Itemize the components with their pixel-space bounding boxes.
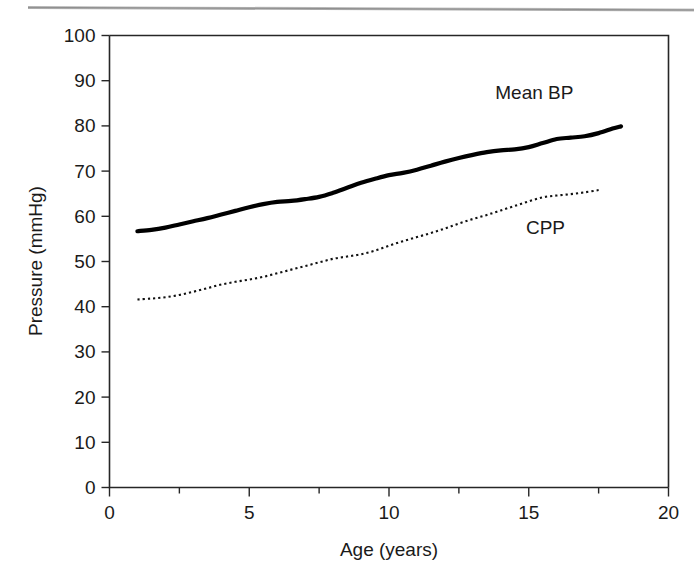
x-axis-title: Age (years)	[340, 539, 438, 560]
chart-axes	[110, 36, 669, 488]
y-tick-label-8: 80	[74, 115, 95, 136]
axis-frame	[110, 36, 669, 488]
y-tick-label-10: 100	[64, 25, 96, 46]
y-tick-label-3: 30	[74, 341, 95, 362]
x-tick-label-2: 10	[378, 502, 399, 523]
series-line-cpp	[137, 190, 598, 299]
line-chart: 0102030405060708090100 05101520 Mean BPC…	[0, 0, 694, 576]
y-tick-label-9: 90	[74, 70, 95, 91]
series-label-mean-bp: Mean BP	[495, 82, 573, 103]
x-axis-tick-labels: 05101520	[104, 502, 679, 523]
y-tick-label-4: 40	[74, 296, 95, 317]
series-annotations: Mean BPCPP	[495, 82, 573, 239]
chart-series	[137, 126, 621, 299]
series-line-mean-bp	[137, 126, 621, 231]
series-label-cpp: CPP	[526, 217, 565, 238]
chart-tick-marks	[102, 36, 669, 497]
y-tick-label-7: 70	[74, 161, 95, 182]
y-axis-title: Pressure (mmHg)	[25, 186, 46, 336]
y-tick-label-2: 20	[74, 387, 95, 408]
x-tick-label-1: 5	[244, 502, 255, 523]
x-tick-label-3: 15	[518, 502, 539, 523]
y-axis-tick-labels: 0102030405060708090100	[64, 25, 96, 498]
x-tick-label-4: 20	[658, 502, 679, 523]
y-tick-label-5: 50	[74, 251, 95, 272]
y-tick-label-6: 60	[74, 206, 95, 227]
axis-spines	[110, 36, 669, 488]
y-tick-label-0: 0	[85, 477, 96, 498]
y-tick-label-1: 10	[74, 432, 95, 453]
chart-figure: 0102030405060708090100 05101520 Mean BPC…	[0, 0, 694, 576]
x-tick-label-0: 0	[104, 502, 115, 523]
